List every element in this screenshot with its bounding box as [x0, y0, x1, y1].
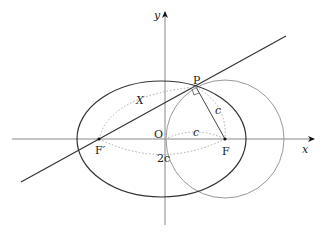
point-f-label: F	[222, 145, 230, 158]
point-f	[223, 137, 226, 140]
point-f-prime-label: F′	[95, 144, 106, 157]
origin-label: O	[154, 128, 163, 141]
point-p-label: P	[193, 74, 201, 87]
tangent-line	[21, 36, 286, 182]
x-distance-label: X	[135, 94, 145, 107]
x-axis-label: x	[302, 143, 309, 156]
c-pf-label: c	[215, 104, 221, 117]
diagram-canvas: y x O P F F′ X c c 2c	[0, 0, 324, 235]
y-axis-label: y	[153, 9, 161, 22]
point-f-prime	[97, 137, 100, 140]
c-of-label: c	[193, 126, 199, 139]
two-c-label: 2c	[157, 152, 170, 165]
